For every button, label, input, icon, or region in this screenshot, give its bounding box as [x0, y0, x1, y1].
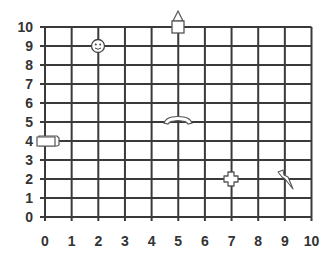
- x-tick-label: 7: [228, 233, 236, 249]
- grid-lines: [40, 27, 312, 221]
- x-tick-label: 4: [148, 233, 156, 249]
- y-tick-label: 6: [25, 95, 33, 111]
- cross-icon: [224, 172, 238, 186]
- y-tick-label: 8: [25, 57, 33, 73]
- y-tick-label: 7: [25, 76, 33, 92]
- y-tick-label: 1: [25, 190, 33, 206]
- y-tick-label: 0: [25, 209, 33, 225]
- y-tick-label: 10: [17, 19, 33, 35]
- y-tick-label: 3: [25, 152, 33, 168]
- x-axis-labels: 012345678910: [41, 233, 319, 249]
- smiley-icon: [92, 40, 105, 53]
- x-tick-label: 1: [68, 233, 76, 249]
- x-tick-label: 8: [254, 233, 262, 249]
- y-tick-label: 5: [25, 114, 33, 130]
- y-tick-label: 4: [25, 133, 33, 149]
- box-icon: [37, 136, 59, 146]
- y-tick-label: 9: [25, 38, 33, 54]
- x-tick-label: 9: [281, 233, 289, 249]
- y-tick-label: 2: [25, 171, 33, 187]
- x-tick-label: 3: [121, 233, 129, 249]
- x-tick-label: 2: [94, 233, 102, 249]
- coordinate-grid-diagram: 012345678910 012345678910: [0, 0, 329, 261]
- x-tick-label: 5: [174, 233, 182, 249]
- x-tick-label: 10: [304, 233, 320, 249]
- house-icon: [172, 11, 184, 33]
- x-tick-label: 6: [201, 233, 209, 249]
- y-axis-labels: 012345678910: [17, 19, 33, 225]
- grid-canvas: 012345678910 012345678910: [0, 0, 329, 261]
- x-tick-label: 0: [41, 233, 49, 249]
